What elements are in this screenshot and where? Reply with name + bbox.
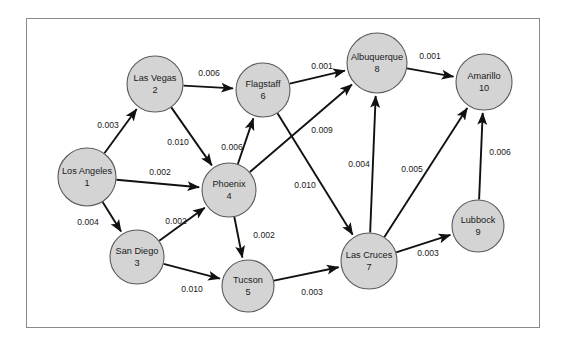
node-circle[interactable] xyxy=(456,54,512,110)
node-los-angeles[interactable]: Los Angeles1 xyxy=(58,148,116,206)
edge-weight-9-10: 0.006 xyxy=(489,147,511,157)
edge-weight-7-9: 0.003 xyxy=(417,248,439,258)
node-label: Tucson xyxy=(233,275,263,285)
node-san-diego[interactable]: San Diego3 xyxy=(110,230,164,284)
edge-6-to-8 xyxy=(290,71,345,84)
edge-weight-3-5: 0.010 xyxy=(181,284,203,294)
edge-4-to-6 xyxy=(238,118,253,164)
node-label: Las Vegas xyxy=(134,73,177,83)
graph-canvas: Los Angeles1Las Vegas2San Diego3Phoenix4… xyxy=(0,0,565,346)
edge-1-to-4 xyxy=(116,180,199,188)
edge-3-to-5 xyxy=(164,264,220,279)
node-circle[interactable] xyxy=(347,33,407,93)
edge-weight-4-6: 0.006 xyxy=(221,142,243,152)
edge-weight-1-4: 0.002 xyxy=(149,167,171,177)
node-number: 1 xyxy=(84,178,89,188)
node-amarillo[interactable]: Amarillo10 xyxy=(456,54,512,110)
edge-5-to-7 xyxy=(274,267,339,280)
node-las-cruces[interactable]: Las Cruces7 xyxy=(341,233,397,289)
edge-weight-7-10: 0.005 xyxy=(401,164,423,174)
node-circle[interactable] xyxy=(202,163,256,217)
edge-7-to-8 xyxy=(370,96,376,233)
node-flagstaff[interactable]: Flagstaff6 xyxy=(236,63,290,117)
edge-1-to-2 xyxy=(104,109,136,153)
edge-weight-2-4: 0.010 xyxy=(167,137,189,147)
edge-1-to-3 xyxy=(103,202,121,232)
edge-weight-1-2: 0.003 xyxy=(97,120,119,130)
node-number: 4 xyxy=(226,191,231,201)
edge-weight-3-4: 0.002 xyxy=(165,216,187,226)
node-number: 9 xyxy=(475,227,480,237)
edge-weight-6-7: 0.010 xyxy=(294,180,316,190)
node-circle[interactable] xyxy=(236,63,290,117)
node-label: Lubbock xyxy=(461,215,496,225)
node-number: 6 xyxy=(260,91,265,101)
edge-weight-7-8: 0.004 xyxy=(348,159,370,169)
node-circle[interactable] xyxy=(127,56,183,112)
edge-weight-2-6: 0.006 xyxy=(198,68,220,78)
node-label: Phoenix xyxy=(212,179,246,189)
node-circle[interactable] xyxy=(110,230,164,284)
node-label: Los Angeles xyxy=(62,166,112,176)
edge-weight-4-8: 0.009 xyxy=(311,125,333,135)
node-circle[interactable] xyxy=(58,148,116,206)
node-lubbock[interactable]: Lubbock9 xyxy=(452,200,504,252)
node-number: 7 xyxy=(366,262,371,272)
diagram-page: Los Angeles1Las Vegas2San Diego3Phoenix4… xyxy=(0,0,565,346)
node-tucson[interactable]: Tucson5 xyxy=(222,260,274,312)
edge-9-to-10 xyxy=(479,113,483,200)
edge-weight-1-3: 0.004 xyxy=(77,217,99,227)
node-circle[interactable] xyxy=(341,233,397,289)
edge-weight-8-10: 0.001 xyxy=(419,51,441,61)
node-number: 3 xyxy=(134,258,139,268)
node-number: 5 xyxy=(245,287,250,297)
node-las-vegas[interactable]: Las Vegas2 xyxy=(127,56,183,112)
node-label: Las Cruces xyxy=(346,250,393,260)
node-number: 2 xyxy=(152,85,157,95)
edge-weight-6-8: 0.001 xyxy=(311,61,333,71)
node-number: 8 xyxy=(374,64,379,74)
edge-weight-4-5: 0.002 xyxy=(253,230,275,240)
node-number: 10 xyxy=(479,83,489,93)
edge-4-to-5 xyxy=(234,217,242,258)
node-circle[interactable] xyxy=(452,200,504,252)
edge-8-to-10 xyxy=(407,68,453,76)
node-label: Albuquerque xyxy=(351,52,403,62)
edge-2-to-6 xyxy=(183,86,233,89)
node-label: Amarillo xyxy=(467,71,500,81)
node-albuquerque[interactable]: Albuquerque8 xyxy=(347,33,407,93)
node-circle[interactable] xyxy=(222,260,274,312)
node-phoenix[interactable]: Phoenix4 xyxy=(202,163,256,217)
node-label: Flagstaff xyxy=(245,79,281,89)
node-label: San Diego xyxy=(116,246,159,256)
edge-weight-5-7: 0.003 xyxy=(301,287,323,297)
